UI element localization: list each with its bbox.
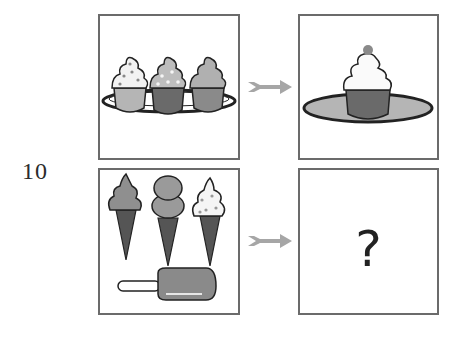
ice-cream-cone-icon [193, 178, 225, 266]
cupcake-icon [190, 58, 226, 112]
single-cupcake-illustration [300, 16, 437, 158]
cupcake-icon [112, 58, 148, 112]
ice-cream-cone-icon [109, 174, 142, 260]
popsicle-icon [118, 268, 216, 300]
cherry-icon [363, 45, 373, 55]
panel-cupcakes-group [98, 14, 240, 160]
arrow-right-icon [246, 78, 294, 96]
panel-single-cupcake [298, 14, 439, 160]
arrow-right-icon [246, 232, 294, 250]
panel-answer[interactable]: ? [298, 168, 439, 315]
cupcake-icon [150, 58, 186, 114]
question-number: 10 [22, 158, 48, 185]
ice-creams-illustration [100, 170, 238, 313]
cupcakes-plate-illustration [100, 16, 238, 158]
question-mark: ? [300, 220, 437, 278]
ice-cream-cone-icon [152, 176, 184, 266]
panel-ice-creams [98, 168, 240, 315]
